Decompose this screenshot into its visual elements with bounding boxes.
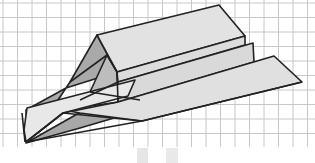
smudge-left [137, 148, 148, 163]
smudge-right [166, 148, 178, 163]
keel-edge [117, 72, 118, 102]
paper-airplane-illustration [0, 0, 315, 163]
